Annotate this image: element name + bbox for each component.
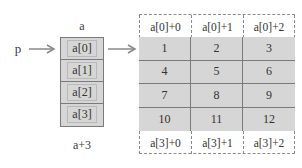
array-a-column: a[0] a[1] a[2] a[3] [60, 37, 104, 127]
column-header: a[0]+0 [139, 15, 191, 38]
array-element: a[1] [60, 59, 104, 83]
array-label-a: a [60, 19, 104, 34]
column-header: a[0]+1 [191, 15, 243, 38]
array-end-label: a+3 [55, 138, 109, 153]
array-element-label: a[1] [67, 62, 96, 79]
matrix-cell: 9 [243, 84, 295, 108]
column-footer: a[3]+2 [243, 131, 295, 154]
pointer-arrow-icon [29, 44, 57, 54]
matrix-cell: 5 [191, 61, 243, 85]
column-header: a[0]+2 [243, 15, 295, 38]
matrix-cell: 10 [139, 108, 191, 132]
array-element-label: a[2] [67, 84, 96, 101]
row-arrow-icon [108, 44, 138, 54]
pointer-label-p: p [12, 41, 24, 57]
matrix-grid: 1 2 3 4 5 6 7 8 9 10 11 12 [139, 37, 295, 131]
matrix-cell: 12 [243, 108, 295, 132]
matrix-cell: 6 [243, 61, 295, 85]
matrix-cell: 8 [191, 84, 243, 108]
array-element-label: a[0] [67, 40, 96, 57]
column-footer: a[3]+0 [139, 131, 191, 154]
matrix-cell: 7 [139, 84, 191, 108]
matrix-cell: 11 [191, 108, 243, 132]
column-headers-bottom: a[3]+0 a[3]+1 a[3]+2 [139, 131, 295, 154]
matrix-cell: 1 [139, 37, 191, 61]
array-element: a[0] [60, 37, 104, 61]
column-footer: a[3]+1 [191, 131, 243, 154]
matrix-cell: 2 [191, 37, 243, 61]
column-headers-top: a[0]+0 a[0]+1 a[0]+2 [139, 14, 295, 37]
matrix-cell: 3 [243, 37, 295, 61]
matrix-cell: 4 [139, 61, 191, 85]
array-element: a[3] [60, 103, 104, 127]
array-element-label: a[3] [67, 106, 96, 123]
array-element: a[2] [60, 81, 104, 105]
